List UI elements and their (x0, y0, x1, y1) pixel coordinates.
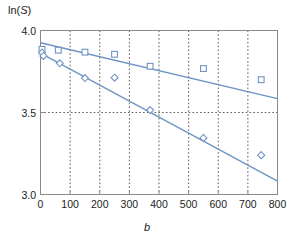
data-point-square (82, 49, 88, 55)
data-point-square (258, 77, 264, 83)
data-point-diamond (56, 60, 63, 67)
data-point-square (147, 63, 153, 69)
data-point-square (112, 51, 118, 57)
data-point-diamond (258, 152, 265, 159)
trend-line (41, 43, 278, 99)
plot-area (0, 0, 294, 242)
data-point-square (201, 66, 207, 72)
x-axis-label: b (0, 221, 294, 233)
data-point-square (55, 47, 61, 53)
chart-figure: ln(S) 3.03.54.0 010020030040050060070080… (0, 0, 294, 242)
data-point-diamond (111, 74, 118, 81)
